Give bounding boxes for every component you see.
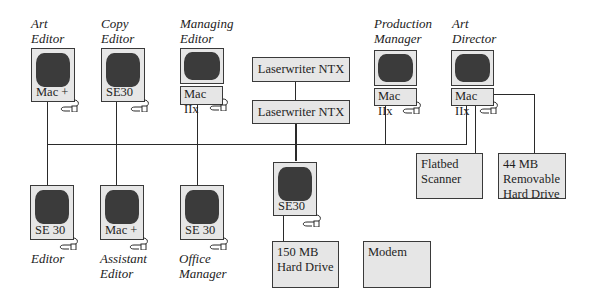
label-copy-editor: Copy Editor — [101, 16, 134, 46]
label-editor: Editor — [31, 251, 64, 266]
computer-office-manager[interactable]: SE 30 — [180, 185, 224, 240]
monitor-screen — [106, 53, 140, 87]
link-hard-drive — [283, 216, 284, 241]
label-office-manager: Office Manager — [179, 251, 227, 281]
hard-drive-150mb[interactable]: 150 MB Hard Drive — [272, 241, 339, 288]
monitor-screen — [35, 190, 69, 224]
mouse-icon — [59, 236, 79, 250]
computer-center-se30[interactable]: SE30 — [273, 162, 317, 216]
link-scanner — [475, 105, 476, 153]
model-label: SE30 — [278, 199, 305, 213]
flatbed-scanner[interactable]: Flatbed Scanner — [416, 153, 483, 199]
link-removable-h — [493, 94, 535, 95]
modem[interactable]: Modem — [363, 241, 431, 288]
computer-assistant-editor[interactable]: Mac + — [100, 185, 144, 240]
model-label: SE 30 — [185, 223, 215, 237]
monitor-screen — [455, 54, 490, 82]
printer-laserwriter-2[interactable]: Laserwriter NTX — [252, 100, 350, 124]
model-label: Mac IIx — [455, 89, 477, 118]
mouse-icon — [402, 100, 422, 114]
computer-copy-editor[interactable]: SE30 — [101, 48, 145, 102]
mouse-icon — [130, 98, 150, 112]
drop-printers-center — [295, 124, 297, 161]
monitor-screen — [185, 190, 219, 224]
monitor-screen — [184, 52, 220, 80]
label-art-director: Art Director — [452, 16, 496, 46]
model-label: SE30 — [106, 85, 133, 99]
label-managing-editor: Managing Editor — [180, 16, 233, 46]
drop-copy-editor — [116, 102, 117, 186]
mouse-icon — [129, 236, 149, 250]
model-label: SE 30 — [35, 223, 65, 237]
monitor-screen — [278, 167, 312, 201]
monitor-screen — [36, 53, 70, 87]
computer-art-editor[interactable]: Mac + — [31, 48, 75, 102]
removable-hard-drive[interactable]: 44 MB Removable Hard Drive — [498, 153, 566, 199]
label-art-editor: Art Editor — [31, 16, 64, 46]
model-label: Mac + — [36, 85, 68, 99]
mouse-icon — [302, 213, 322, 227]
label-assistant-editor: Assistant Editor — [100, 251, 147, 281]
network-bus — [47, 144, 467, 145]
model-label: Mac + — [105, 223, 137, 237]
mouse-icon — [209, 97, 229, 111]
drop-art-editor — [47, 102, 48, 186]
monitor-screen — [105, 190, 139, 224]
mouse-icon — [209, 236, 229, 250]
label-production-manager: Production Manager — [374, 16, 432, 46]
monitor-art-director[interactable] — [451, 50, 494, 86]
printer-link — [295, 82, 296, 100]
model-label: Mac IIx — [184, 87, 206, 116]
printer-laserwriter-1[interactable]: Laserwriter NTX — [252, 57, 350, 82]
mouse-icon — [479, 100, 499, 114]
monitor-production-manager[interactable] — [374, 50, 417, 86]
model-label: Mac IIx — [378, 89, 400, 118]
link-removable-v — [534, 94, 535, 153]
computer-editor[interactable]: SE 30 — [30, 185, 74, 240]
monitor-screen — [378, 54, 413, 82]
mouse-icon — [60, 98, 80, 112]
drop-managing-editor — [197, 105, 198, 186]
monitor-managing-editor[interactable] — [180, 48, 224, 84]
